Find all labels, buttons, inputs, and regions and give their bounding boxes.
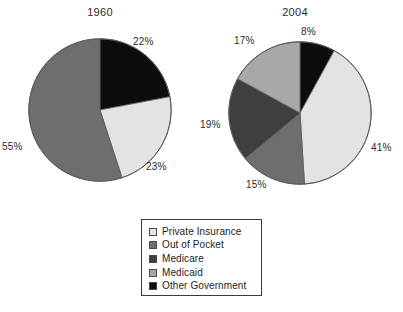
legend-item-label: Private Insurance: [162, 227, 242, 237]
chart-legend: Private InsuranceOut of PocketMedicareMe…: [141, 219, 262, 296]
pie-1960-label-out-of-pocket: 55%: [2, 141, 23, 152]
pie-2004-svg: [228, 41, 372, 185]
legend-item-medicare[interactable]: Medicare: [149, 252, 261, 266]
pie-2004-label-private-insurance: 41%: [371, 142, 392, 153]
pie-title-2004: 2004: [263, 6, 327, 18]
pie-1960-label-other-government: 22%: [133, 36, 154, 47]
pie-chart-2004: [228, 41, 372, 185]
pie-2004-label-medicaid: 17%: [234, 35, 255, 46]
legend-item-label: Medicare: [162, 254, 204, 264]
pie-2004-label-out-of-pocket: 15%: [246, 179, 267, 190]
pie-title-1960: 1960: [68, 6, 132, 18]
legend-item-medicaid[interactable]: Medicaid: [149, 266, 261, 280]
legend-swatch-icon: [149, 282, 157, 290]
legend-item-label: Out of Pocket: [162, 240, 224, 250]
pie-2004-label-other-government: 8%: [301, 26, 316, 37]
legend-swatch-icon: [149, 255, 157, 263]
pie-1960-label-private-insurance: 23%: [146, 161, 167, 172]
legend-item-out-of-pocket[interactable]: Out of Pocket: [149, 239, 261, 253]
legend-item-other-government[interactable]: Other Government: [149, 279, 261, 293]
legend-item-label: Medicaid: [162, 268, 203, 278]
legend-item-private-insurance[interactable]: Private Insurance: [149, 225, 261, 239]
legend-swatch-icon: [149, 228, 157, 236]
legend-swatch-icon: [149, 269, 157, 277]
pie-2004-label-medicare: 19%: [200, 119, 221, 130]
legend-swatch-icon: [149, 241, 157, 249]
pie-chart-figure: 1960 2004 22% 23% 55% 8% 17% 19% 15% 41%…: [0, 0, 403, 312]
legend-item-label: Other Government: [162, 281, 246, 291]
